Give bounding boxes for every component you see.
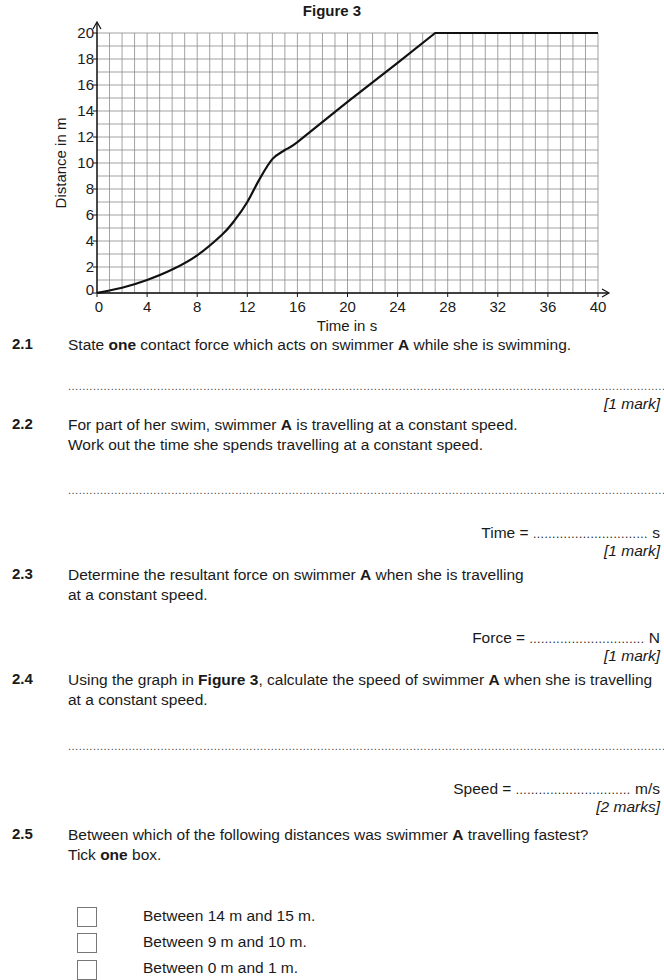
answer-unit: m/s [635, 780, 660, 797]
question-text: Between which of the following distances… [68, 825, 588, 865]
working-line[interactable]: ........................................… [68, 740, 664, 752]
x-tick-label: 20 [339, 298, 356, 315]
y-tick-label: 12 [77, 128, 94, 145]
chart-ticks: 048121620242832364002468101214161820 [77, 24, 606, 315]
y-axis-label: Distance in m [52, 118, 69, 209]
question-text: Determine the resultant force on swimmer… [68, 565, 524, 605]
mark-allocation: [1 mark] [604, 647, 660, 665]
mark-allocation: [1 mark] [604, 542, 660, 560]
y-tick-label: 14 [77, 102, 94, 119]
distance-time-graph: 048121620242832364002468101214161820 Tim… [0, 0, 664, 335]
x-tick-label: 4 [143, 298, 151, 315]
tick-box-option-2[interactable] [77, 933, 97, 953]
y-tick-label: 10 [77, 154, 94, 171]
question-text: State one contact force which acts on sw… [68, 335, 571, 355]
option-label: Between 14 m and 15 m. [143, 907, 315, 925]
option-label: Between 0 m and 1 m. [143, 959, 298, 977]
chart-axes [93, 22, 609, 297]
answer-field-force[interactable]: Force = .............................. N [472, 629, 660, 647]
x-tick-label: 24 [389, 298, 406, 315]
answer-label: Time = [481, 524, 528, 541]
mark-allocation: [2 marks] [596, 798, 660, 816]
question-text: For part of her swim, swimmer A is trave… [68, 415, 518, 455]
y-tick-label: 2 [86, 258, 94, 275]
y-tick-label: 6 [86, 206, 94, 223]
question-number: 2.2 [12, 415, 33, 432]
answer-unit: N [649, 629, 660, 646]
working-line[interactable]: ........................................… [68, 484, 664, 496]
y-tick-label: 8 [86, 180, 94, 197]
tick-box-option-3[interactable] [77, 960, 97, 980]
y-tick-label: 4 [86, 232, 94, 249]
y-tick-label: 0 [86, 281, 94, 298]
option-label: Between 9 m and 10 m. [143, 933, 307, 951]
question-text: Using the graph in Figure 3, calculate t… [68, 670, 652, 710]
x-tick-label: 36 [540, 298, 557, 315]
x-tick-label: 16 [289, 298, 306, 315]
question-number: 2.4 [12, 670, 33, 687]
answer-field-speed[interactable]: Speed = .............................. m… [453, 780, 660, 798]
question-number: 2.3 [12, 565, 33, 582]
y-tick-label: 16 [77, 76, 94, 93]
answer-line[interactable]: ........................................… [68, 380, 664, 392]
answer-label: Force = [472, 629, 525, 646]
x-tick-label: 40 [590, 298, 607, 315]
y-tick-label: 20 [77, 24, 94, 41]
answer-unit: s [652, 524, 660, 541]
tick-box-option-1[interactable] [77, 907, 97, 927]
x-tick-label: 0 [95, 298, 103, 315]
answer-label: Speed = [453, 780, 511, 797]
mark-allocation: [1 mark] [604, 395, 660, 413]
question-number: 2.1 [12, 335, 33, 352]
y-tick-label: 18 [77, 50, 94, 67]
answer-field-time[interactable]: Time = .............................. s [481, 524, 660, 542]
x-tick-label: 12 [239, 298, 256, 315]
x-tick-label: 8 [193, 298, 201, 315]
x-axis-label: Time in s [317, 317, 377, 334]
question-number: 2.5 [12, 825, 33, 842]
chart-grid [97, 33, 598, 293]
x-tick-label: 32 [489, 298, 506, 315]
x-tick-label: 28 [439, 298, 456, 315]
